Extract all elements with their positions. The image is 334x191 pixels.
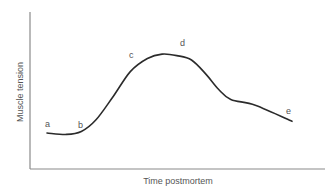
muscle-tension-chart: a b c d e Time postmortem Muscle tension (0, 0, 334, 191)
point-label-d: d (180, 38, 185, 48)
point-label-c: c (129, 50, 134, 60)
x-axis-title: Time postmortem (143, 176, 213, 186)
point-label-a: a (45, 119, 50, 129)
y-axis-title: Muscle tension (15, 62, 25, 122)
muscle-tension-curve (47, 54, 292, 134)
point-label-b: b (78, 120, 83, 130)
point-label-e: e (286, 106, 291, 116)
point-labels: a b c d e (45, 38, 291, 130)
axes (30, 12, 325, 169)
